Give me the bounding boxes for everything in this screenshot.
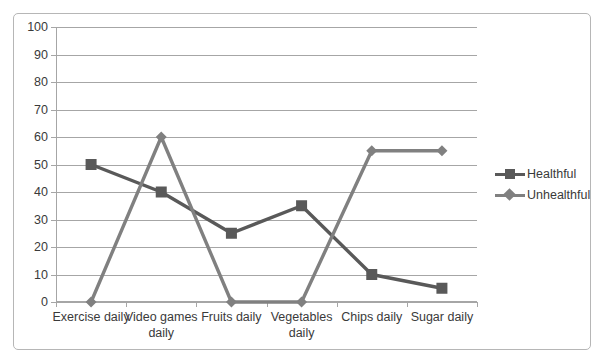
y-axis-tick-label: 60 xyxy=(34,131,48,144)
x-axis-tick-label: Video games daily xyxy=(122,310,200,341)
y-axis-tick-label: 50 xyxy=(34,158,48,171)
y-axis-tick-label: 20 xyxy=(34,241,48,254)
series-line-healthful xyxy=(91,165,442,289)
square-marker-icon xyxy=(366,269,377,280)
y-axis-tick-label: 0 xyxy=(41,296,48,309)
y-axis-tick-label: 100 xyxy=(27,21,48,34)
legend-label-unhealthful: Unhealthful xyxy=(527,188,590,202)
x-axis-tick-label: Exercise daily xyxy=(52,310,130,326)
chart-legend: Healthful Unhealthful xyxy=(495,163,590,205)
y-axis-tick-label: 40 xyxy=(34,186,48,199)
legend-item-healthful[interactable]: Healthful xyxy=(495,163,590,184)
x-axis-tick xyxy=(337,302,338,307)
series-plot xyxy=(56,27,477,302)
diamond-marker-icon xyxy=(503,188,516,201)
diamond-marker-icon xyxy=(86,297,97,308)
y-axis-tick-label: 30 xyxy=(34,213,48,226)
legend-label-healthful: Healthful xyxy=(527,167,576,181)
square-marker-icon xyxy=(226,228,237,239)
x-axis-tick xyxy=(196,302,197,307)
square-marker-icon xyxy=(86,159,97,170)
x-axis-tick-label: Sugar daily xyxy=(403,310,481,326)
square-marker-icon xyxy=(505,169,515,179)
diamond-marker-icon xyxy=(366,145,377,156)
diamond-marker-icon xyxy=(226,297,237,308)
plot-area: 0102030405060708090100 Exercise dailyVid… xyxy=(56,27,477,302)
x-axis-tick xyxy=(477,302,478,307)
x-axis-tick-label: Chips daily xyxy=(333,310,411,326)
x-axis-tick-label: Fruits daily xyxy=(192,310,270,326)
square-marker-icon xyxy=(156,187,167,198)
x-axis-tick xyxy=(407,302,408,307)
square-marker-icon xyxy=(296,200,307,211)
diamond-marker-icon xyxy=(156,132,167,143)
square-marker-icon xyxy=(436,283,447,294)
legend-item-unhealthful[interactable]: Unhealthful xyxy=(495,184,590,205)
unhealthful-series-marker-icon xyxy=(495,188,525,202)
x-axis-tick xyxy=(126,302,127,307)
diamond-marker-icon xyxy=(296,297,307,308)
x-axis-tick-label: Vegetables daily xyxy=(263,310,341,341)
y-axis-tick-label: 80 xyxy=(34,76,48,89)
y-axis-tick-label: 10 xyxy=(34,268,48,281)
healthful-series-marker-icon xyxy=(495,167,525,181)
x-axis-tick xyxy=(56,302,57,307)
y-axis-tick-label: 90 xyxy=(34,48,48,61)
y-axis-tick-label: 70 xyxy=(34,103,48,116)
diamond-marker-icon xyxy=(436,145,447,156)
